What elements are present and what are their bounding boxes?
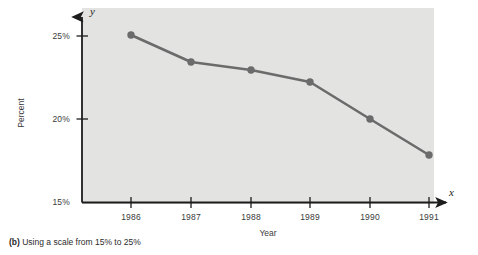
data-point-1987 — [187, 58, 194, 65]
data-point-1988 — [247, 66, 254, 73]
y-axis-variable-label: y — [90, 5, 95, 17]
x-tick-label-1990: 1990 — [350, 212, 390, 222]
figure-container: 25% 20% 15% 1986 1987 1988 1989 1990 199… — [0, 0, 478, 255]
x-tick-label-1987: 1987 — [171, 212, 211, 222]
x-tick-label-1989: 1989 — [290, 212, 330, 222]
figure-caption: (b) Using a scale from 15% to 25% — [9, 237, 141, 247]
series-markers-percent — [127, 31, 432, 158]
y-tick-label-15: 15% — [30, 197, 70, 207]
series-line-percent — [131, 35, 429, 155]
x-tick-label-1986: 1986 — [111, 212, 151, 222]
data-point-1990 — [366, 115, 373, 122]
figure-caption-label: (b) — [9, 237, 20, 247]
y-tick-label-20: 20% — [30, 114, 70, 124]
x-tick-label-1988: 1988 — [231, 212, 271, 222]
data-point-1991 — [425, 151, 432, 158]
x-axis-title: Year — [238, 228, 298, 238]
data-point-1986 — [127, 31, 134, 38]
x-tick-label-1991: 1991 — [409, 212, 449, 222]
figure-caption-text: Using a scale from 15% to 25% — [22, 237, 141, 247]
data-point-1989 — [306, 78, 313, 85]
y-tick-label-25: 25% — [30, 31, 70, 41]
x-axis-variable-label: x — [449, 186, 454, 198]
y-axis-title: Percent — [16, 83, 26, 143]
